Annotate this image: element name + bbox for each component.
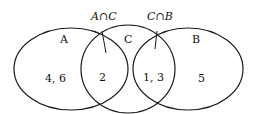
callout-line-a-c	[102, 31, 106, 53]
callout-c-intersect-b: C∩B	[147, 10, 173, 23]
set-c-label: C	[124, 33, 132, 46]
set-a-label: A	[60, 33, 68, 46]
region-a-and-c: 2	[99, 71, 106, 84]
region-a-only: 4, 6	[45, 72, 66, 85]
set-b-ellipse	[133, 28, 243, 110]
callout-a-intersect-c: A∩C	[91, 10, 117, 23]
set-b-label: B	[192, 33, 200, 46]
region-b-only: 5	[198, 72, 205, 85]
set-a-ellipse	[14, 28, 128, 110]
venn-diagram: A∩C C∩B A C B 4, 6 2 1, 3 5	[0, 0, 257, 114]
venn-shapes	[0, 0, 257, 114]
region-c-and-b: 1, 3	[143, 71, 164, 84]
